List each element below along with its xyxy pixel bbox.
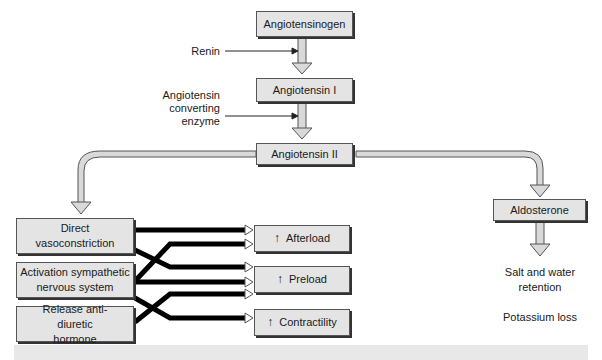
node-angiotensin-1: Angiotensin I — [256, 78, 353, 102]
node-release-adh: Release anti-diuretic hormone — [16, 306, 134, 342]
ace-line: converting — [140, 102, 220, 115]
node-label: Angiotensin I — [273, 83, 337, 98]
node-label: Angiotensinogen — [264, 17, 346, 32]
node-direct-vasoconstriction: Direct vasoconstriction — [16, 218, 134, 254]
node-label: Preload — [289, 272, 327, 287]
increase-arrow-icon: ↑ — [274, 231, 280, 246]
node-afterload: ↑ Afterload — [254, 225, 350, 252]
node-label: Aldosterone — [510, 203, 569, 218]
ace-label: Angiotensin converting enzyme — [140, 89, 220, 128]
node-angiotensin-2: Angiotensin II — [256, 143, 353, 165]
caption-band — [14, 345, 588, 360]
node-label: Activation sympathetic nervous system — [19, 265, 131, 295]
node-preload: ↑ Preload — [254, 266, 350, 293]
node-label: Direct vasoconstriction — [30, 221, 120, 251]
node-label: Angiotensin II — [271, 147, 338, 162]
ace-line: enzyme — [140, 115, 220, 128]
increase-arrow-icon: ↑ — [277, 272, 283, 287]
salt-line: Salt and water — [490, 265, 590, 280]
node-angiotensinogen: Angiotensinogen — [256, 11, 353, 37]
ace-line: Angiotensin — [140, 89, 220, 102]
node-contractility: ↑ Contractility — [254, 309, 350, 336]
salt-water-label: Salt and water retention — [490, 265, 590, 295]
node-aldosterone: Aldosterone — [493, 199, 586, 221]
node-label: Contractility — [279, 315, 336, 330]
renin-label: Renin — [170, 45, 220, 58]
potassium-label: Potassium loss — [490, 310, 590, 325]
salt-line: retention — [490, 280, 590, 295]
node-label: Afterload — [286, 231, 330, 246]
node-activation-sympathetic: Activation sympathetic nervous system — [16, 262, 134, 298]
increase-arrow-icon: ↑ — [267, 315, 273, 330]
node-label: Release anti-diuretic hormone — [35, 302, 115, 347]
